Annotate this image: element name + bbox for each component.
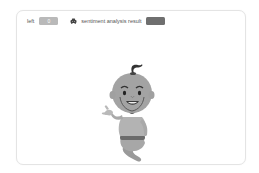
sentiment-panel: left 0 sentiment analysis result [16, 10, 246, 165]
robot-icon [70, 18, 77, 24]
left-counter-badge: 0 [39, 17, 58, 25]
result-label: sentiment analysis result [81, 18, 141, 24]
genie-illustration [85, 57, 157, 163]
left-label: left [27, 18, 34, 24]
result-group: sentiment analysis result [70, 17, 164, 25]
result-value-badge [146, 17, 165, 25]
panel-toolbar: left 0 sentiment analysis result [27, 16, 165, 26]
